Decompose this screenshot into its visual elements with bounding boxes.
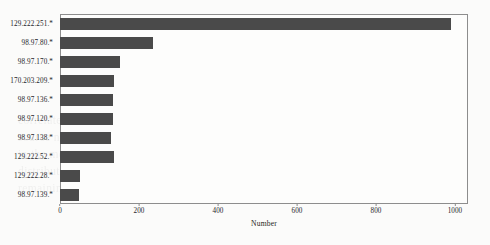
bar — [60, 170, 80, 182]
tick-mark — [60, 204, 61, 206]
y-axis-tick-label: 98.97.120.* — [0, 109, 56, 128]
x-axis-tick: 400 — [213, 204, 224, 215]
y-axis-tick-label: 170.203.209.* — [0, 71, 56, 90]
bar-row — [60, 147, 468, 166]
x-axis-tick-label: 1000 — [448, 207, 462, 215]
tick-mark — [217, 204, 218, 206]
bar-row — [60, 33, 468, 52]
bar-row — [60, 52, 468, 71]
tick-mark — [454, 204, 455, 206]
x-axis-tick: 0 — [58, 204, 62, 215]
bar-series — [60, 14, 468, 204]
y-axis-tick-label: 98.97.139.* — [0, 185, 56, 204]
x-axis-title: Number — [60, 219, 468, 228]
bar — [60, 132, 111, 144]
bar-row — [60, 109, 468, 128]
tick-mark — [375, 204, 376, 206]
x-axis-tick-label: 800 — [371, 207, 382, 215]
y-axis-category-labels: 129.222.251.*98.97.80.*98.97.170.*170.20… — [0, 14, 56, 204]
bar-row — [60, 90, 468, 109]
bar-row — [60, 14, 468, 33]
x-axis-tick-label: 0 — [58, 207, 62, 215]
bar — [60, 113, 113, 125]
x-axis-tick: 800 — [371, 204, 382, 215]
x-axis-tick-label: 400 — [213, 207, 224, 215]
y-axis-tick-label: 129.222.28.* — [0, 166, 56, 185]
y-axis-tick-label: 98.97.138.* — [0, 128, 56, 147]
bar — [60, 94, 113, 106]
tick-mark — [138, 204, 139, 206]
bar — [60, 37, 153, 49]
y-axis-tick-label: 129.222.251.* — [0, 14, 56, 33]
tick-mark — [296, 204, 297, 206]
bar-row — [60, 128, 468, 147]
bar — [60, 75, 114, 87]
bar — [60, 189, 79, 201]
y-axis-tick-label: 98.97.136.* — [0, 90, 56, 109]
bar-row — [60, 166, 468, 185]
y-axis-tick-label: 98.97.170.* — [0, 52, 56, 71]
bar-row — [60, 185, 468, 204]
bar-row — [60, 71, 468, 90]
y-axis-tick-label: 98.97.80.* — [0, 33, 56, 52]
y-axis-tick-label: 129.222.52.* — [0, 147, 56, 166]
x-axis-tick: 1000 — [448, 204, 462, 215]
x-axis-tick: 600 — [292, 204, 303, 215]
bar-chart-figure: 129.222.251.*98.97.80.*98.97.170.*170.20… — [0, 0, 490, 245]
x-axis-tick-label: 600 — [292, 207, 303, 215]
x-axis-tick: 200 — [134, 204, 145, 215]
bar — [60, 18, 451, 30]
x-axis-tick-label: 200 — [134, 207, 145, 215]
bar — [60, 151, 114, 163]
bar — [60, 56, 120, 68]
